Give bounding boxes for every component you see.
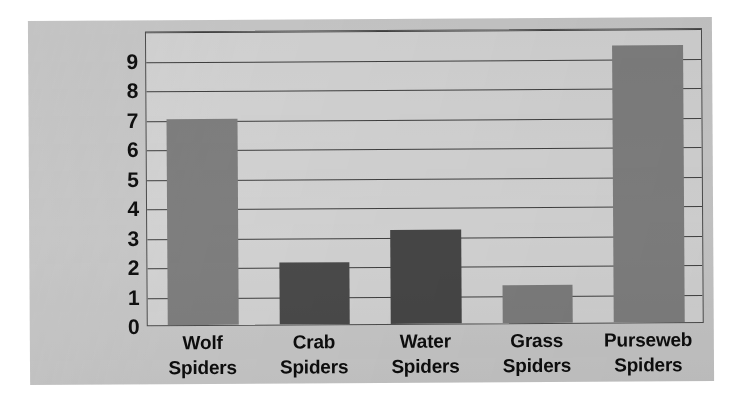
bar-wolf-spiders[interactable] [167,118,239,325]
bar-crab-spiders[interactable] [279,262,350,324]
x-label-line1: Grass [481,328,593,354]
chart-page: 0123456789 WolfSpidersCrabSpidersWaterSp… [0,0,729,413]
y-tick-label-2: 2 [105,257,139,278]
x-label-line1: Water [370,328,482,354]
plot-area [145,28,704,326]
x-label-line2: Spiders [481,353,593,379]
y-axis: 0123456789 [78,31,140,326]
y-tick-label-5: 5 [105,168,139,189]
x-label-line1: Wolf [147,330,259,356]
y-tick-label-7: 7 [104,109,138,130]
y-tick-label-9: 9 [104,50,138,71]
chart-card: 0123456789 WolfSpidersCrabSpidersWaterSp… [28,17,714,385]
gridline-10 [146,29,701,33]
y-tick-label-1: 1 [106,286,140,307]
x-axis-label-purseweb-spiders: PursewebSpiders [592,327,704,378]
y-tick-label-3: 3 [105,227,139,248]
x-label-line2: Spiders [370,353,482,379]
bar-grass-spiders[interactable] [502,284,573,323]
x-axis-label-wolf-spiders: WolfSpiders [147,330,259,381]
x-label-line1: Purseweb [592,327,704,353]
x-axis-label-crab-spiders: CrabSpiders [258,329,370,380]
y-tick-label-0: 0 [106,316,140,337]
x-axis-labels: WolfSpidersCrabSpidersWaterSpidersGrassS… [147,327,704,384]
y-tick-label-8: 8 [104,80,138,101]
y-tick-label-6: 6 [105,139,139,160]
bar-purseweb-spiders[interactable] [612,45,684,323]
bar-water-spiders[interactable] [390,229,461,324]
x-label-line1: Crab [258,329,370,355]
y-tick-label-4: 4 [105,198,139,219]
x-label-line2: Spiders [593,352,705,378]
x-label-line2: Spiders [147,355,259,381]
x-label-line2: Spiders [258,354,370,380]
x-axis-label-grass-spiders: GrassSpiders [481,328,593,379]
x-axis-label-water-spiders: WaterSpiders [370,328,482,379]
